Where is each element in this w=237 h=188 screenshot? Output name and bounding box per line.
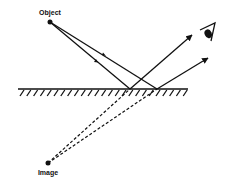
reflected-rays <box>130 35 208 89</box>
mirror <box>18 89 188 96</box>
image-point <box>46 161 51 166</box>
image-label: Image <box>38 169 58 177</box>
eye-icon <box>200 23 215 41</box>
object-point <box>48 20 53 25</box>
virtual-rays <box>48 89 157 163</box>
object-label: Object <box>39 9 61 17</box>
mirror-hatching <box>20 90 187 96</box>
reflection-diagram: Object Image <box>0 0 237 188</box>
